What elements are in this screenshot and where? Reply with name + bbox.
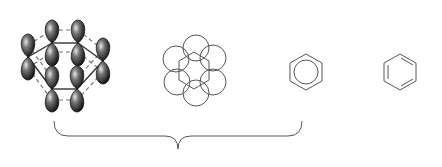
grouping-brace — [54, 121, 302, 149]
p-orbital-icon — [96, 38, 110, 84]
overlap-circles — [163, 35, 226, 106]
p-orbital-ring — [21, 20, 110, 112]
aromatic-circle-structure — [290, 54, 322, 90]
kekule-structure — [384, 54, 416, 90]
p-orbital-icon — [21, 34, 35, 80]
benzene-diagram: Benzene representations — [0, 0, 442, 167]
diagram-canvas — [0, 0, 442, 167]
